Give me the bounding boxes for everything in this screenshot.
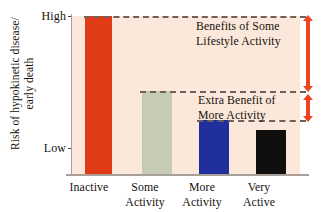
x-tick-label-very-active: Very Active [230,180,288,209]
y-axis-title-line1: Risk of hypokinetic disease/ [9,17,21,150]
y-tick-label-low: Low [22,141,66,156]
double-arrow-icon-extra-benefit [303,94,313,122]
y-tick-label-high: High [22,9,66,24]
arrow-head-down-icon [303,116,313,122]
annotation-extra-line1: Extra Benefit of [198,93,276,107]
risk-vs-activity-bar-chart: Risk of hypokinetic disease/ early death… [0,0,322,212]
bar-more-activity [199,120,229,174]
arrow-shaft [306,98,310,118]
y-axis-title-line2: early death [23,58,35,110]
bar-inactive [85,16,112,174]
arrow-shaft [306,19,310,88]
annotation-benefits-of-some-lifestyle-activity: Benefits of Some Lifestyle Activity [196,19,300,48]
x-label-0-line1: Inactive [70,180,109,194]
x-tick-label-some-activity: Some Activity [116,180,174,209]
x-label-2-line2: Activity [173,195,231,210]
x-axis-line [66,174,309,176]
x-tick-label-more-activity: More Activity [173,180,231,209]
bar-some-activity [142,91,172,174]
annotation-extra-line2: More Activity [198,108,266,122]
arrow-head-down-icon [303,86,313,92]
bar-very-active [256,130,286,174]
annotation-benefits-line2: Lifestyle Activity [196,34,281,48]
x-label-1-line2: Activity [116,195,174,210]
x-label-3-line1: Very [248,180,271,194]
x-label-1-line1: Some [131,180,158,194]
x-label-2-line1: More [189,180,215,194]
x-label-3-line2: Active [230,195,288,210]
annotation-extra-benefit-of-more-activity: Extra Benefit of More Activity [198,93,298,122]
reference-line-high-risk [84,16,306,18]
x-tick-label-inactive: Inactive [60,180,118,195]
double-arrow-icon-benefits [303,15,313,92]
annotation-benefits-line1: Benefits of Some [196,19,280,33]
